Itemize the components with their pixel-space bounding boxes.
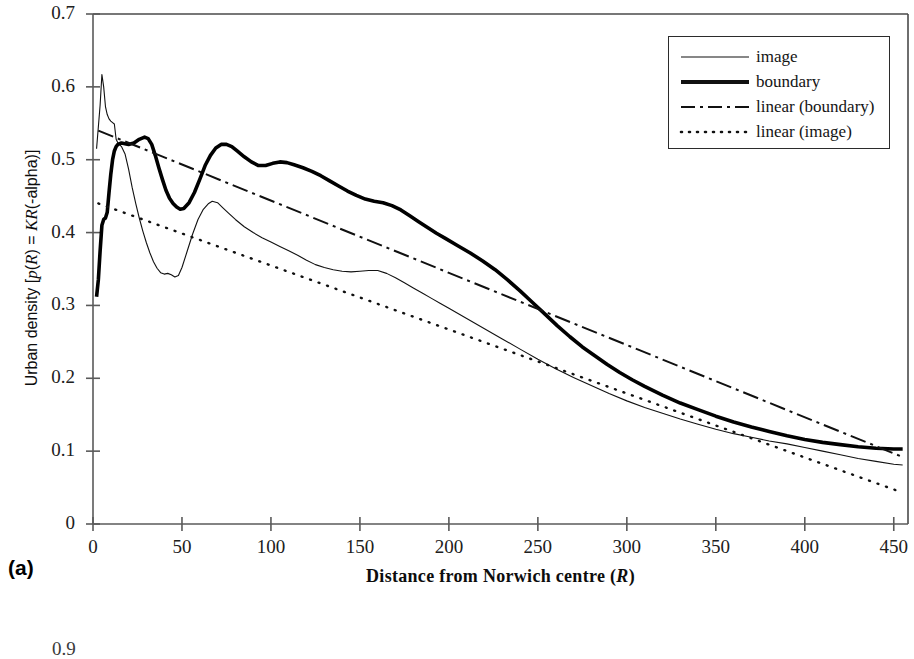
y-axis-title-k: K	[22, 220, 41, 231]
legend-label: boundary	[756, 72, 820, 92]
legend-label: linear (image)	[756, 122, 852, 142]
series-linear-boundary-	[98, 131, 902, 457]
legend-label: linear (boundary)	[756, 97, 874, 117]
legend-line-icon	[679, 125, 751, 139]
x-axis-title-r: R	[616, 566, 628, 586]
y-axis-title: Urban density [p(R) = KR(-alpha)]	[22, 8, 42, 528]
legend-line-icon	[679, 75, 751, 89]
x-tick-label: 300	[597, 536, 657, 558]
y-axis-title-r2: R	[22, 209, 41, 219]
legend-line-icon	[679, 50, 751, 64]
x-axis-title: Distance from Norwich centre (R)	[93, 566, 908, 587]
x-tick-label: 200	[419, 536, 479, 558]
y-axis-title-mid1: (	[23, 265, 40, 270]
next-figure-partial-ytick: 0.9	[52, 638, 76, 659]
x-axis-title-suffix: )	[629, 566, 635, 586]
legend-item: image	[669, 44, 889, 69]
y-axis-title-prefix: Urban density [	[23, 279, 40, 387]
chart-legend: imageboundarylinear (boundary)linear (im…	[668, 36, 890, 149]
x-tick-label: 100	[241, 536, 301, 558]
legend-item: linear (image)	[669, 119, 889, 144]
panel-label: (a)	[8, 556, 34, 580]
y-axis-title-mid2: ) =	[23, 231, 40, 255]
y-axis-title-p: p	[22, 270, 41, 279]
x-tick-label: 400	[775, 536, 835, 558]
legend-label: image	[756, 47, 798, 67]
series-boundary	[97, 137, 903, 449]
x-tick-label: 450	[864, 536, 914, 558]
x-tick-label: 250	[508, 536, 568, 558]
x-tick-label: 150	[330, 536, 390, 558]
legend-item: linear (boundary)	[669, 94, 889, 119]
legend-item: boundary	[669, 69, 889, 94]
x-axis-title-prefix: Distance from Norwich centre (	[366, 566, 616, 586]
x-tick-label: 350	[686, 536, 746, 558]
figure-panel-a: 00.10.20.30.40.50.60.7 05010015020025030…	[0, 0, 914, 659]
y-axis-title-r1: R	[22, 255, 41, 265]
series-linear-image-	[98, 203, 902, 492]
x-tick-label: 50	[152, 536, 212, 558]
legend-line-icon	[679, 100, 751, 114]
y-axis-title-suffix: (-alpha)]	[23, 150, 40, 210]
x-tick-label: 0	[63, 536, 123, 558]
